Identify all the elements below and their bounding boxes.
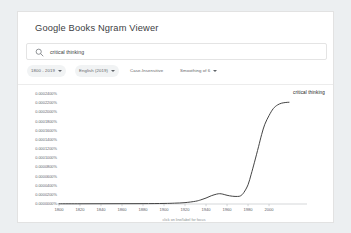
- x-axis-tick-label: 1860: [117, 208, 126, 212]
- y-axis-tick-labels: 0.0002400%0.0002200%0.0002000%0.0001800%…: [18, 86, 57, 223]
- filter-chip-row: 1800 - 2019 English (2019) Case-Insensit…: [27, 65, 327, 79]
- smoothing-chip[interactable]: Smoothing of 6: [176, 65, 221, 77]
- language-chip-label: English (2019): [79, 68, 108, 73]
- x-axis-tick-label: 1880: [138, 208, 147, 212]
- y-axis-tick-label: 0.0001200%: [35, 147, 57, 151]
- y-axis-tick-label: 0.0000400%: [35, 184, 57, 188]
- chevron-down-icon: [111, 70, 115, 72]
- language-chip[interactable]: English (2019): [75, 65, 119, 77]
- chart-plot-area[interactable]: [18, 86, 334, 223]
- y-axis-tick-label: 0.0000800%: [35, 165, 57, 169]
- chevron-down-icon: [58, 70, 62, 72]
- y-axis-tick-label: 0.0001800%: [35, 120, 57, 124]
- search-input-value: critical thinking: [50, 49, 84, 55]
- chart-hint-text: click on line/label for focus: [162, 218, 205, 222]
- y-axis-tick-label: 0.0001600%: [35, 129, 57, 133]
- x-axis-tick-label: 2000: [264, 208, 273, 212]
- x-axis-tick-label: 1800: [54, 208, 63, 212]
- case-sensitivity-chip-label: Case-Insensitive: [130, 68, 163, 73]
- y-axis-tick-label: 0.0000000%: [35, 202, 57, 206]
- y-axis-tick-label: 0.0001000%: [35, 156, 57, 160]
- y-axis-tick-label: 0.0000600%: [35, 175, 57, 179]
- x-axis-tick-label: 1820: [75, 208, 84, 212]
- x-axis-tick-label: 1940: [201, 208, 210, 212]
- y-axis-tick-label: 0.0000200%: [35, 193, 57, 197]
- search-input[interactable]: critical thinking: [26, 43, 327, 60]
- y-axis-tick-label: 0.0002200%: [35, 101, 57, 105]
- x-axis-tick-label: 1840: [96, 208, 105, 212]
- page-title: Google Books Ngram Viewer: [35, 23, 158, 33]
- date-range-chip-label: 1800 - 2019: [31, 68, 55, 73]
- y-axis-tick-label: 0.0002400%: [35, 92, 57, 96]
- case-sensitivity-chip[interactable]: Case-Insensitive: [126, 65, 167, 77]
- smoothing-chip-label: Smoothing of 6: [180, 68, 210, 73]
- ngram-chart[interactable]: 0.0002400%0.0002200%0.0002000%0.0001800%…: [18, 86, 334, 223]
- date-range-chip[interactable]: 1800 - 2019: [27, 65, 66, 77]
- x-axis-tick-label: 1920: [180, 208, 189, 212]
- search-icon: [35, 48, 44, 57]
- ngram-viewer-card: Google Books Ngram Viewer critical think…: [17, 11, 334, 223]
- x-axis-tick-label: 1900: [159, 208, 168, 212]
- x-axis-tick-label: 1960: [222, 208, 231, 212]
- chevron-down-icon: [213, 70, 217, 72]
- y-axis-tick-label: 0.0001400%: [35, 138, 57, 142]
- y-axis-tick-label: 0.0002000%: [35, 110, 57, 114]
- x-axis-tick-label: 1980: [243, 208, 252, 212]
- divider: [18, 84, 334, 85]
- series-label[interactable]: critical thinking: [293, 90, 325, 95]
- series-line-critical-thinking[interactable]: [59, 102, 289, 204]
